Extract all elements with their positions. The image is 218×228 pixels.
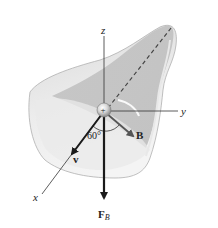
velocity-label: v bbox=[73, 153, 79, 165]
field-surface bbox=[29, 25, 177, 178]
b-field-label: B bbox=[136, 129, 144, 141]
force-label-subscript: B bbox=[105, 213, 110, 222]
force-label: FB bbox=[98, 208, 110, 222]
x-axis-label: x bbox=[32, 191, 38, 203]
magnetic-force-diagram: z y x 60° B v FB + bbox=[0, 0, 218, 228]
y-axis-label: y bbox=[180, 105, 186, 117]
charge-particle: + bbox=[97, 103, 111, 117]
z-axis-label: z bbox=[100, 24, 106, 36]
charge-sign: + bbox=[101, 105, 106, 115]
